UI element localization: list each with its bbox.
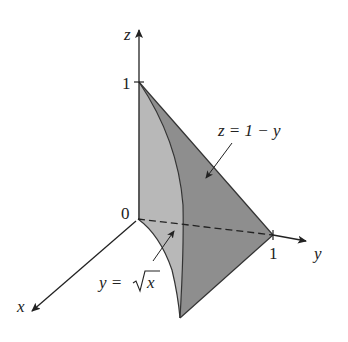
y-tick-label: 1 <box>269 244 278 263</box>
y-axis-label: y <box>312 244 322 263</box>
x-axis <box>32 221 136 311</box>
origin-label: 0 <box>121 204 130 223</box>
z-axis-label: z <box>123 25 131 44</box>
x-axis-label: x <box>16 297 25 316</box>
curve-equation-rhs: x <box>146 273 155 292</box>
plane-equation-label: z = 1 − y <box>217 121 281 140</box>
diagram-canvas: z 1 0 1 y x z = 1 − y y = x <box>0 0 348 342</box>
z-tick-label: 1 <box>122 74 131 93</box>
curve-equation-lhs: y = <box>97 273 122 292</box>
y-axis <box>273 235 306 241</box>
